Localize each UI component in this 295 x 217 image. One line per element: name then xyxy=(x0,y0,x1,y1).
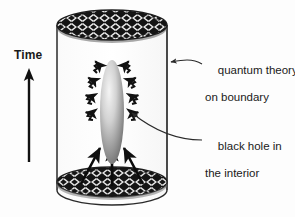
time-arrow xyxy=(24,68,34,162)
quantum-theory-line-2: on boundary xyxy=(205,91,295,105)
black-hole-ellipse xyxy=(100,60,124,164)
time-axis-label: Time xyxy=(14,48,42,62)
quantum-theory-line-1: quantum theory xyxy=(218,64,295,76)
quantum-theory-leader xyxy=(171,60,202,64)
black-hole-annotation: black hole in the interior xyxy=(205,126,282,207)
black-hole-line-1: black hole in xyxy=(218,140,282,152)
top-cap-tessellation xyxy=(57,10,167,43)
radiation-squiggle-6 xyxy=(131,78,136,88)
quantum-theory-annotation: quantum theory on boundary xyxy=(205,50,295,131)
figure-canvas: Time quantum theory on boundary black ho… xyxy=(0,0,295,217)
radiation-squiggle-2 xyxy=(88,78,93,88)
black-hole-line-2: the interior xyxy=(205,167,282,181)
